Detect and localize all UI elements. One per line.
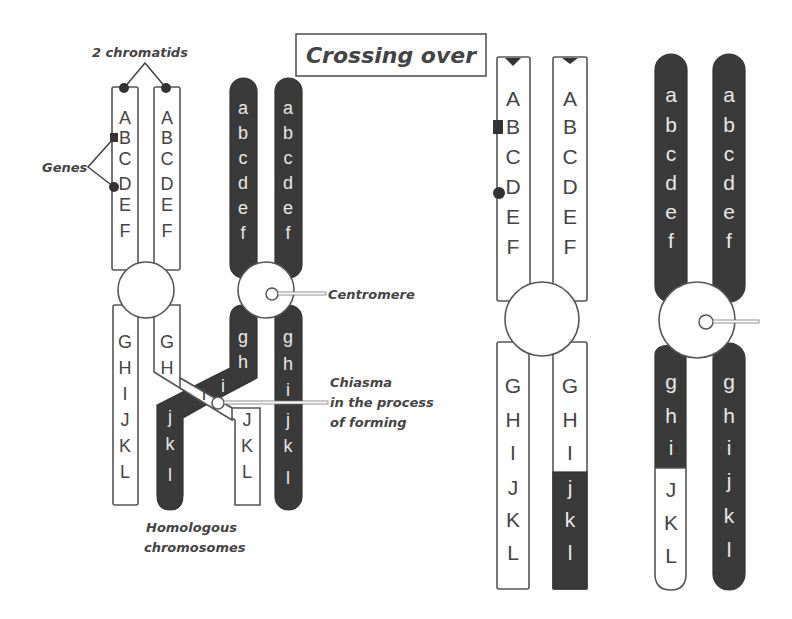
svg-text:H: H: [161, 358, 174, 378]
svg-text:b: b: [723, 113, 735, 136]
svg-text:H: H: [119, 358, 132, 378]
chiasma-label-3: of forming: [330, 415, 407, 430]
svg-text:G: G: [160, 332, 174, 352]
svg-text:a: a: [723, 83, 735, 106]
svg-text:L: L: [507, 541, 519, 564]
svg-text:C: C: [161, 149, 174, 169]
svg-text:c: c: [724, 142, 735, 165]
svg-text:d: d: [283, 173, 293, 193]
svg-text:a: a: [665, 83, 677, 106]
svg-text:B: B: [119, 128, 131, 148]
crossing-over-diagram: Crossing over 2 chromatids Genes A B C D…: [0, 0, 792, 619]
svg-text:b: b: [238, 123, 248, 143]
svg-text:b: b: [283, 123, 293, 143]
svg-text:F: F: [507, 235, 520, 258]
svg-text:G: G: [505, 374, 521, 397]
genes-label: Genes: [42, 160, 88, 175]
svg-text:D: D: [505, 175, 520, 198]
svg-text:D: D: [562, 175, 577, 198]
svg-text:g: g: [723, 370, 735, 393]
svg-text:d: d: [238, 173, 248, 193]
recombined-chromosome-dark: a b c d e f a b c d e f g h i g h i j: [655, 54, 759, 590]
svg-text:E: E: [563, 205, 577, 228]
svg-text:D: D: [119, 174, 132, 194]
svg-text:B: B: [506, 115, 520, 138]
svg-text:A: A: [506, 87, 520, 110]
svg-text:k: k: [166, 434, 176, 454]
gene-letters-r2-lower-white: J K L: [664, 478, 678, 567]
chromatids-pointer: [124, 63, 166, 88]
svg-text:I: I: [567, 441, 573, 464]
centromere-white: [118, 262, 174, 318]
svg-text:K: K: [506, 508, 520, 531]
svg-text:g: g: [665, 370, 677, 393]
gene-marker-b: [493, 120, 503, 134]
chiasma-pointer-line: [224, 401, 328, 404]
genes-pointer: [88, 138, 114, 187]
homologous-label-1: Homologous: [146, 520, 237, 535]
svg-text:E: E: [119, 195, 131, 215]
svg-text:h: h: [665, 404, 677, 427]
svg-text:f: f: [668, 229, 674, 252]
svg-text:K: K: [241, 436, 253, 456]
homologous-label-2: chromosomes: [144, 540, 246, 555]
svg-text:D: D: [161, 174, 174, 194]
svg-text:c: c: [239, 148, 248, 168]
svg-text:d: d: [723, 171, 735, 194]
svg-text:k: k: [565, 508, 576, 531]
chromatids-label: 2 chromatids: [92, 45, 188, 60]
svg-text:J: J: [666, 478, 677, 501]
svg-text:h: h: [283, 354, 293, 374]
svg-text:A: A: [563, 87, 577, 110]
centromere-r2-pointer-line: [713, 320, 759, 323]
svg-text:i: i: [286, 380, 290, 400]
svg-text:I: I: [201, 384, 206, 404]
svg-text:J: J: [508, 476, 519, 499]
svg-text:G: G: [562, 374, 578, 397]
svg-text:C: C: [505, 145, 520, 168]
svg-text:A: A: [119, 108, 131, 128]
svg-text:k: k: [284, 436, 294, 456]
svg-text:j: j: [726, 469, 732, 492]
gene-marker-d: [109, 182, 119, 192]
svg-text:j: j: [285, 410, 290, 430]
svg-text:f: f: [726, 229, 732, 252]
svg-text:K: K: [664, 511, 678, 534]
svg-text:e: e: [723, 200, 735, 223]
svg-text:L: L: [120, 462, 130, 482]
svg-text:j: j: [167, 407, 172, 427]
gene-marker-d: [493, 187, 505, 199]
svg-text:K: K: [119, 436, 131, 456]
svg-text:b: b: [665, 113, 677, 136]
svg-text:H: H: [505, 408, 520, 431]
svg-text:a: a: [283, 98, 294, 118]
chiasma-label-1: Chiasma: [330, 375, 392, 390]
centromere-pointer-dot: [266, 288, 278, 300]
svg-text:e: e: [238, 198, 248, 218]
svg-text:e: e: [665, 200, 677, 223]
centromere-label: Centromere: [328, 287, 415, 302]
svg-text:L: L: [665, 544, 677, 567]
svg-text:l: l: [568, 541, 573, 564]
svg-text:l: l: [168, 465, 172, 485]
chiasma-label-2: in the process: [330, 395, 434, 410]
svg-text:J: J: [243, 410, 252, 430]
svg-text:C: C: [562, 145, 577, 168]
svg-text:i: i: [727, 436, 732, 459]
chiasma-pointer-dot: [212, 397, 224, 409]
svg-text:B: B: [563, 115, 577, 138]
centromere-dark: [238, 262, 294, 318]
svg-text:g: g: [238, 327, 248, 347]
svg-text:l: l: [286, 468, 290, 488]
svg-text:H: H: [562, 408, 577, 431]
svg-text:i: i: [669, 436, 674, 459]
svg-text:d: d: [665, 171, 677, 194]
svg-text:F: F: [564, 235, 577, 258]
svg-text:c: c: [666, 142, 677, 165]
recombined-chromosome-white: A B C D E F A B C D E F G H I J K L G H …: [493, 57, 587, 589]
svg-text:I: I: [122, 384, 127, 404]
svg-text:e: e: [283, 198, 293, 218]
svg-text:B: B: [161, 128, 173, 148]
svg-text:F: F: [162, 221, 173, 241]
chromatid-tip-marker: [119, 83, 129, 93]
